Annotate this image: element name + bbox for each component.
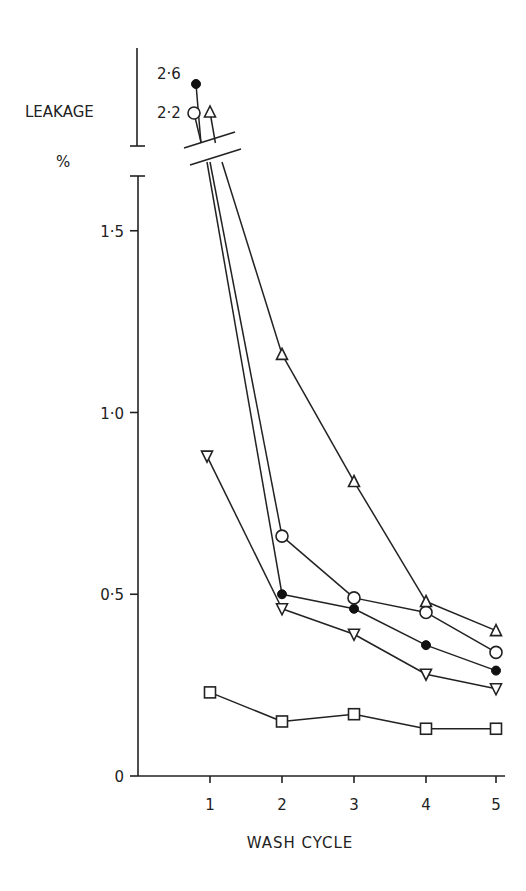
- leakage-chart: 00·51·01·5 12345 LEAKAGE % 2·6 2·2 WASH …: [0, 0, 526, 891]
- triangle-up-marker: [491, 625, 502, 636]
- open-circle-marker: [188, 107, 200, 119]
- triangle-down-marker: [202, 451, 213, 462]
- series-lines: [194, 84, 496, 729]
- open-circle-marker: [276, 530, 288, 542]
- series-line: [207, 162, 282, 594]
- axes: [130, 48, 505, 776]
- series-line: [282, 536, 354, 598]
- break-label-high: 2·6: [157, 65, 181, 83]
- filled-circle-marker: [350, 604, 359, 613]
- triangle-up-marker: [421, 596, 432, 607]
- open-circle-marker: [420, 606, 432, 618]
- series-line: [426, 645, 496, 670]
- series-line: [426, 602, 496, 631]
- series-line: [354, 482, 426, 602]
- square-marker: [205, 687, 216, 698]
- filled-circle-marker: [278, 590, 287, 599]
- y-axis-unit: %: [56, 153, 70, 171]
- open-circle-marker: [490, 646, 502, 658]
- series-line: [282, 609, 354, 634]
- series-line: [354, 598, 426, 613]
- series-line: [210, 162, 282, 536]
- x-ticks: 12345: [205, 776, 501, 814]
- y-axis-title: LEAKAGE: [25, 103, 94, 121]
- triangle-up-marker: [205, 106, 216, 117]
- series-markers: [188, 80, 502, 735]
- x-tick-label: 4: [421, 796, 431, 814]
- triangle-up-marker: [277, 348, 288, 359]
- break-label-low: 2·2: [157, 104, 181, 122]
- filled-circle-marker: [492, 666, 501, 675]
- series-line: [210, 692, 282, 721]
- x-tick-label: 5: [491, 796, 501, 814]
- open-circle-marker: [348, 592, 360, 604]
- axis-break-marks: [184, 132, 241, 165]
- series-line: [426, 612, 496, 652]
- x-tick-label: 2: [277, 796, 287, 814]
- filled-circle-marker: [422, 641, 431, 650]
- y-tick-label: 0: [114, 768, 124, 786]
- y-tick-label: 1·0: [100, 405, 124, 423]
- y-ticks: 00·51·01·5: [100, 223, 138, 786]
- x-tick-label: 1: [205, 796, 215, 814]
- triangle-down-marker: [277, 604, 288, 615]
- series-line: [282, 354, 354, 481]
- series-line: [282, 594, 354, 609]
- series-line: [282, 714, 354, 721]
- filled-circle-marker: [192, 80, 201, 89]
- y-tick-label: 0·5: [100, 586, 124, 604]
- x-axis-title: WASH CYCLE: [247, 834, 354, 852]
- series-line: [426, 674, 496, 689]
- square-marker: [277, 716, 288, 727]
- square-marker: [491, 723, 502, 734]
- series-line: [222, 162, 282, 354]
- y-tick-label: 1·5: [100, 223, 124, 241]
- square-marker: [349, 709, 360, 720]
- x-tick-label: 3: [349, 796, 359, 814]
- triangle-down-marker: [491, 684, 502, 695]
- square-marker: [421, 723, 432, 734]
- triangle-up-marker: [349, 476, 360, 487]
- series-line: [354, 714, 426, 729]
- triangle-down-marker: [349, 629, 360, 640]
